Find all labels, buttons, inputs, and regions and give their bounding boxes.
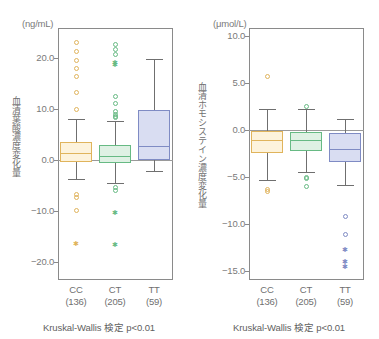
whisker-upper (154, 59, 155, 111)
box-plot-folate-tt (0, 0, 189, 339)
median-line (138, 146, 170, 147)
box (138, 110, 170, 160)
outlier-point (343, 214, 348, 219)
extreme-outlier-point: ✱ (341, 263, 349, 270)
whisker-lower (345, 162, 346, 185)
box-plot-figure: (ng/mL) 血清葉酸濃度変化量 20.0 10.0 0.0 −10.0 −2… (0, 0, 379, 339)
whisker-cap-lower (337, 185, 354, 186)
extreme-outlier-point: ✱ (341, 246, 349, 253)
median-line (329, 149, 361, 150)
whisker-lower (154, 160, 155, 171)
panel-folate: (ng/mL) 血清葉酸濃度変化量 20.0 10.0 0.0 −10.0 −2… (0, 0, 189, 339)
panel-homocysteine: (μmol/L) 血清ホモシステイン濃度変化量 10.0 5.0 0.0 −5.… (190, 0, 379, 339)
whisker-cap-lower (146, 171, 163, 172)
outlier-point (343, 232, 348, 237)
box-plot-homocysteine-tt: ✱✱✱ (190, 0, 379, 339)
whisker-cap-upper (146, 59, 163, 60)
whisker-cap-upper (337, 119, 354, 120)
whisker-upper (345, 119, 346, 133)
box (329, 133, 361, 162)
